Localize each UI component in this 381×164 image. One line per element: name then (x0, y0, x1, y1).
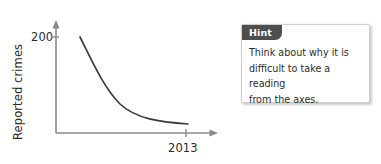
hint-callout-box: Hint Think about why it is difficult to … (241, 24, 370, 103)
reported-crimes-chart: Reported crimes 200 2013 (0, 0, 235, 164)
data-curve-reported-crimes (80, 37, 188, 124)
x-axis-tick-label-2013: 2013 (168, 141, 198, 155)
x-axis-arrowhead (210, 129, 219, 136)
hint-text-line-1: Think about why it is (249, 45, 364, 61)
hint-text-line-2: difficult to take a reading (249, 61, 364, 92)
y-axis-tick-label-200: 200 (31, 30, 53, 44)
y-axis-title: Reported crimes (11, 44, 25, 140)
hint-body-text: Think about why it is difficult to take … (249, 45, 364, 107)
screenshot-root: Reported crimes 200 2013 Hint (0, 0, 381, 164)
hint-header-tab: Hint (242, 25, 282, 40)
y-axis-arrowhead (52, 20, 59, 29)
hint-header-label: Hint (249, 28, 272, 38)
hint-text-line-3: from the axes. (249, 92, 364, 108)
chart-svg: Reported crimes 200 2013 (0, 0, 235, 164)
